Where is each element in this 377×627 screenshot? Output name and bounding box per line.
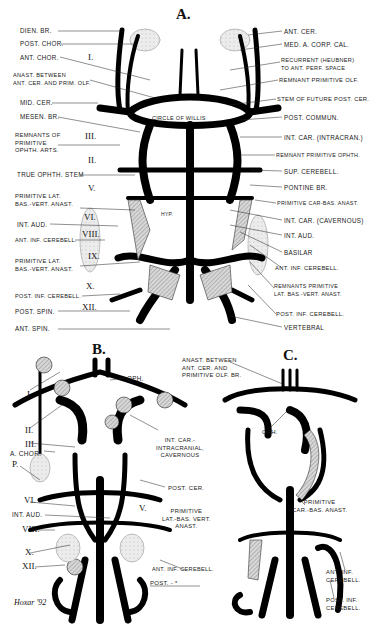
c-label-ant-inf-cerebell: Ant. inf. cerebell. xyxy=(326,569,361,584)
label-circle-of-willis: Circle of Willis xyxy=(152,115,206,122)
label-remnant-primitive-olf: Remnant primitive olf. xyxy=(279,77,359,84)
b-nerve-XII: XII. xyxy=(22,561,37,571)
nerve-VI: VI. xyxy=(84,212,96,222)
label-basilar: Basilar xyxy=(284,249,313,256)
nerve-III: III. xyxy=(85,131,96,141)
nerve-IX: IX. xyxy=(88,251,100,261)
label-post-inf-cerebell-left: Post. inf. cerebell. xyxy=(15,293,81,300)
label-post-commun: Post. commun. xyxy=(284,114,339,121)
b-nerve-I: I. xyxy=(27,389,32,399)
label-int-aud-left: Int. aud. xyxy=(17,221,47,228)
b-nerve-III: III. xyxy=(25,439,36,449)
label-int-car-intracran: Int. car. (intracran.) xyxy=(284,134,363,141)
label-remnants-primitive-ophth: Remnants of primitive ophth. arts. xyxy=(15,132,61,155)
panel-b-title: B. xyxy=(92,341,106,358)
label-int-aud-right: Int. aud. xyxy=(284,232,314,239)
label-med-a-corp-cal: Med. a. corp. cal. xyxy=(284,41,349,48)
b-nerve-VIII: VIII. xyxy=(22,524,40,534)
label-anast-ant-cer-prim-olf: Anast. between ant. cer. and prim. olf. xyxy=(13,72,91,87)
b-label-int-aud: Int. aud. xyxy=(12,511,42,518)
nerve-XII: XII. xyxy=(82,302,97,312)
label-hyp: Hyp. xyxy=(161,211,173,218)
label-post-spin: Post. spin. xyxy=(15,308,55,315)
label-post-chor: Post. chor. xyxy=(20,40,64,47)
label-primitive-lat-bas-vert-1: Primitive lat. bas.-vert. anast. xyxy=(15,193,73,208)
nerve-X: X. xyxy=(86,281,95,291)
b-nerve-X: X. xyxy=(25,547,34,557)
b-label-p: P. xyxy=(12,459,18,469)
panel-a-title: A. xyxy=(176,6,191,23)
b-label-int-car-intracranial: Int. car.- intracranial, cavernous xyxy=(156,437,204,460)
panel-b-leader-lines xyxy=(20,372,200,586)
artist-signature: Hoxar '92 xyxy=(14,598,46,607)
b-label-post: Post. - * xyxy=(150,580,178,587)
label-remnant-primitive-ophth: Remnant primitive ophth. xyxy=(276,152,360,159)
nerve-I: I. xyxy=(88,52,93,62)
label-post-inf-cerebell-right: Post. inf. cerebell. xyxy=(276,311,344,318)
label-true-ophth-stem: True ophth. stem xyxy=(17,171,84,178)
label-ant-spin: Ant. spin. xyxy=(15,325,50,332)
label-mid-cer: Mid. cer. xyxy=(20,99,53,106)
b-label-a-chor: A. chor. xyxy=(10,450,41,457)
label-int-car-cavernous: Int. car. (cavernous) xyxy=(284,217,364,224)
c-label-post-inf-cerebell: Post. inf. cerebell. xyxy=(326,597,361,612)
nerve-II: II. xyxy=(88,155,96,165)
b-label-primitive-lat-bas-vert: Primitive lat.-bas. vert. anast. xyxy=(162,508,211,531)
label-sup-cerebell: Sup. cerebell. xyxy=(284,168,338,175)
label-remnants-primitive-lat-bas-vert: Remnants primitive lat. bas.-vert. anast… xyxy=(274,283,342,298)
label-ant-inf-cerebell-right: Ant. inf. cerebell. xyxy=(275,265,339,272)
label-ant-chor: Ant. chor. xyxy=(20,54,59,61)
label-primitive-lat-bas-vert-2: Primitive lat. bas.-vert. anast. xyxy=(15,258,73,273)
label-ant-cer: Ant. cer. xyxy=(284,28,317,35)
label-vertebral: Vertebral xyxy=(284,324,324,331)
c-label-oph: Oph. xyxy=(262,429,278,436)
nerve-V: V. xyxy=(88,183,96,193)
label-primitive-car-bas-anast: Primitive car-bas. anast. xyxy=(277,200,359,207)
label-ant-inf-cerebell-left: Ant. inf. cerebell. xyxy=(15,237,77,244)
nerve-VIII: VIII. xyxy=(82,229,100,239)
panel-c-title: C. xyxy=(283,347,298,364)
c-label-primitive-car-bas-anast: Primitive car.-bas. anast. xyxy=(292,499,347,514)
b-nerve-VI: VI. xyxy=(24,495,36,505)
b-label-ant-inf-cerebell: Ant. inf. cerebell. xyxy=(152,566,214,573)
label-pontine-br: Pontine br. xyxy=(284,184,328,191)
b-label-oph: Oph. xyxy=(127,375,144,382)
label-dien-br: Dien. br. xyxy=(20,27,52,34)
label-stem-future-post-cer: Stem of future post. cer. xyxy=(277,96,369,103)
b-nerve-V: V. xyxy=(139,503,147,513)
label-recurrent-heubner: Recurrent (Heubner) to ant. perf. space xyxy=(281,57,354,72)
b-label-post-cer: Post. cer. xyxy=(168,485,204,492)
b-nerve-II: II. xyxy=(25,425,33,435)
c-label-anast-ant-cer-olf: Anast. between ant. cer. and primitive o… xyxy=(182,357,242,380)
label-mesen-br: Mesen. br. xyxy=(20,113,59,120)
